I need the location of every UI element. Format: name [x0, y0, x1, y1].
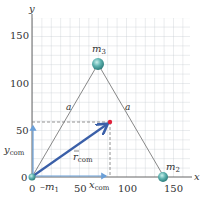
y-axis-label: y: [28, 3, 35, 14]
x-tick-150: 150: [164, 183, 183, 194]
grid: [32, 18, 190, 177]
com-dot: [108, 120, 112, 124]
x-axis-label: x: [194, 171, 200, 182]
x-com-label: xcom: [89, 179, 110, 192]
y-tick-0: 0: [21, 172, 27, 183]
m1-label: –m1: [40, 181, 59, 194]
center-of-mass-diagram: y x 150 100 50 0 0 50 100 150 a a m3 m2 …: [0, 0, 205, 199]
x-tick-0: 0: [29, 183, 35, 194]
y-tick-150: 150: [10, 30, 29, 41]
x-tick-50: 50: [74, 183, 87, 194]
mass-m1: [29, 174, 36, 181]
y-tick-50: 50: [16, 125, 29, 136]
y-tick-100: 100: [10, 78, 29, 89]
mass-m2: [158, 172, 168, 182]
y-com-label: ycom: [3, 144, 25, 157]
side-label-left: a: [66, 102, 71, 112]
side-label-right: a: [125, 102, 130, 112]
x-tick-100: 100: [118, 183, 137, 194]
mass-m3: [92, 58, 104, 70]
